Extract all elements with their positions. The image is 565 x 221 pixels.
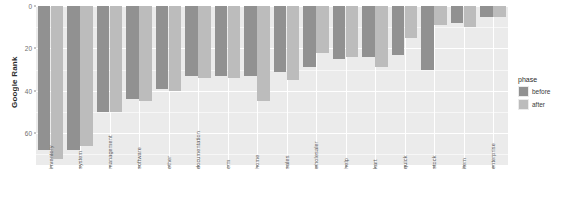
bar-before [97,6,109,112]
x-tick-label: enterprise [490,143,496,169]
bar-before [392,6,404,55]
bar-before [451,6,463,23]
y-axis-ticks: 0204060 [22,0,36,172]
bar-after [434,6,446,25]
legend-label: after [532,101,545,108]
bar-group [38,6,64,165]
bar-after [80,6,92,146]
bar-before [244,6,256,76]
legend-title: phase [518,76,564,83]
bar-after [375,6,387,67]
legend-item-after[interactable]: after [518,99,564,110]
bar-before [274,6,286,72]
bar-group [67,6,93,165]
bar-group [451,6,477,165]
bar-after [139,6,151,101]
y-tick-label: 20 [25,45,32,52]
x-tick-label: other [166,156,172,169]
x-tick-label: software [136,147,142,169]
y-tick-label: 40 [25,87,32,94]
bar-after [228,6,240,78]
legend-items: beforeafter [518,86,564,110]
bar-before [362,6,374,57]
bar-group [480,6,506,165]
x-tick-label: documentation [195,131,201,169]
bar-group [156,6,182,165]
legend-key [518,86,529,97]
x-tick-label: inventory [48,145,54,169]
bar-before [215,6,227,76]
bar-group [392,6,418,165]
bar-before [480,6,492,17]
bar-group [333,6,359,165]
x-tick-label: home [254,155,260,169]
bar-group [215,6,241,165]
bar-before [156,6,168,89]
y-tick-label: 0 [28,3,32,10]
bar-before [333,6,345,59]
bar-before [126,6,138,99]
x-tick-label: sales [284,155,290,169]
x-tick-label: quick [402,155,408,169]
bar-after [169,6,181,91]
x-axis-labels: inventorysystemmanagementsoftwareotherdo… [36,165,508,221]
bar-after [464,6,476,27]
bar-after [198,6,210,78]
y-axis-title: Google Rank [6,0,22,165]
legend-swatch-before [519,87,528,96]
bar-before [67,6,79,150]
x-tick-label: help [343,158,349,169]
legend-key [518,99,529,110]
legend-item-before[interactable]: before [518,86,564,97]
bar-after [316,6,328,53]
bar-after [51,6,63,159]
x-tick-label: system [77,151,83,169]
legend-swatch-after [519,100,528,109]
x-tick-label: kart [372,159,378,169]
bar-before [38,6,50,150]
x-tick-label: stock [431,155,437,169]
x-tick-label: wholesaler [313,141,319,169]
bar-group [126,6,152,165]
bar-before [185,6,197,76]
bar-after [257,6,269,101]
y-tick-label: 60 [25,130,32,137]
bar-after [493,6,505,17]
x-tick-label: crm [225,159,231,169]
bar-group [274,6,300,165]
chart-root: Google Rank 0204060 inventorysystemmanag… [0,0,565,221]
bar-after [287,6,299,80]
bar-before [303,6,315,67]
bar-group [244,6,270,165]
bar-after [405,6,417,38]
legend: phase beforeafter [518,76,564,112]
bar-group [421,6,447,165]
legend-label: before [532,88,550,95]
bar-after [346,6,358,57]
x-tick-label: management [107,135,113,169]
bar-group [362,6,388,165]
x-tick-label: item [461,158,467,169]
bar-after [110,6,122,112]
bar-before [421,6,433,70]
